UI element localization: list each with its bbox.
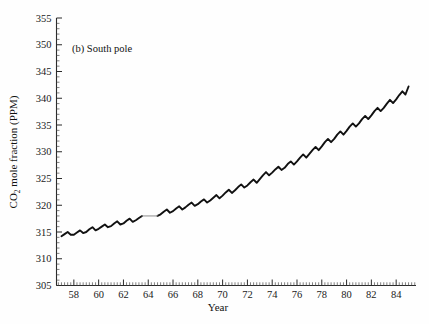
y-axis-tick-labels: 305310315320325330335340345350355 bbox=[36, 13, 52, 292]
x-tick-label: 82 bbox=[366, 289, 377, 300]
co2-data-curve bbox=[61, 86, 408, 236]
y-tick-label: 325 bbox=[36, 173, 52, 184]
y-tick-label: 355 bbox=[36, 13, 52, 24]
y-axis-title-main: CO bbox=[7, 193, 19, 208]
y-tick-label: 310 bbox=[36, 253, 52, 264]
y-tick-label: 340 bbox=[36, 93, 52, 104]
y-tick-label: 350 bbox=[36, 39, 52, 50]
x-axis-title: Year bbox=[208, 301, 229, 313]
y-tick-label: 335 bbox=[36, 120, 52, 131]
y-tick-label: 305 bbox=[36, 280, 52, 291]
x-tick-label: 70 bbox=[217, 289, 228, 300]
x-tick-label: 60 bbox=[93, 289, 104, 300]
x-axis-ticks bbox=[58, 280, 414, 286]
x-tick-label: 58 bbox=[69, 289, 80, 300]
x-tick-label: 78 bbox=[317, 289, 328, 300]
figure-container: 305310315320325330335340345350355 586062… bbox=[0, 0, 429, 324]
svg-text:CO2 mole fraction (PPM): CO2 mole fraction (PPM) bbox=[7, 95, 22, 208]
y-tick-label: 315 bbox=[36, 227, 52, 238]
y-axis-ticks bbox=[57, 18, 63, 286]
x-tick-label: 72 bbox=[242, 289, 253, 300]
x-tick-label: 66 bbox=[168, 289, 179, 300]
x-tick-label: 68 bbox=[193, 289, 204, 300]
y-axis-title: CO2 mole fraction (PPM) bbox=[7, 95, 22, 208]
y-tick-label: 320 bbox=[36, 200, 52, 211]
x-tick-label: 76 bbox=[292, 289, 303, 300]
x-axis-tick-labels: 5860626466687072747678808284 bbox=[69, 289, 403, 300]
y-axis-title-rest: mole fraction (PPM) bbox=[7, 95, 20, 189]
x-tick-label: 80 bbox=[341, 289, 352, 300]
x-tick-label: 84 bbox=[391, 289, 402, 300]
y-tick-label: 345 bbox=[36, 66, 52, 77]
panel-label: (b) South pole bbox=[72, 43, 132, 55]
axis-group bbox=[57, 18, 417, 286]
x-tick-label: 64 bbox=[143, 289, 154, 300]
x-tick-label: 74 bbox=[267, 289, 278, 300]
x-tick-label: 62 bbox=[118, 289, 129, 300]
co2-south-pole-chart: 305310315320325330335340345350355 586062… bbox=[0, 0, 429, 324]
y-tick-label: 330 bbox=[36, 146, 52, 157]
